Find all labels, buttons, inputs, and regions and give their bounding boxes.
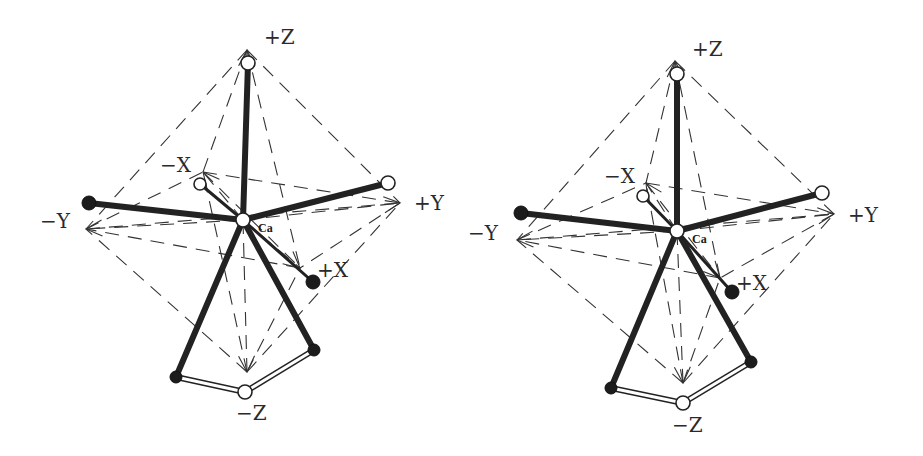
atom-lower-right bbox=[745, 356, 757, 368]
octahedron-edge bbox=[203, 172, 247, 372]
bond-ca-lower-left bbox=[611, 231, 677, 388]
atom-minus-y bbox=[82, 196, 96, 210]
axis-label-mx: −X bbox=[604, 164, 636, 188]
bond-ca-plus-y bbox=[677, 193, 822, 231]
atom-plus-y bbox=[381, 176, 395, 190]
axis-line-my bbox=[86, 220, 243, 229]
octahedron-edge bbox=[203, 50, 247, 172]
axis-label-mx: −X bbox=[160, 153, 192, 177]
atom-minus-y bbox=[514, 206, 528, 220]
atom-bottom bbox=[676, 396, 690, 410]
atom-lower-right bbox=[308, 344, 320, 356]
atom-minus-x bbox=[194, 178, 206, 190]
octahedron-edge bbox=[720, 214, 834, 278]
bond-ca-lower-right bbox=[243, 220, 314, 350]
ca-label: Ca bbox=[258, 221, 273, 235]
axis-label-my: −Y bbox=[40, 209, 71, 233]
bond-ca-top bbox=[243, 63, 248, 220]
axis-line-mx bbox=[646, 183, 677, 231]
atom-top bbox=[670, 67, 684, 81]
bond-ca-minus-y bbox=[89, 203, 243, 220]
double-bond-inner bbox=[176, 377, 245, 392]
left-stereo-panel: Ca+Z−Z+Y−Y+X−X bbox=[40, 25, 445, 425]
octahedron-edge bbox=[646, 61, 675, 183]
octahedron-edge bbox=[517, 240, 683, 383]
ca-atom bbox=[670, 224, 684, 238]
double-bond-inner bbox=[683, 362, 751, 403]
octahedron-edge bbox=[247, 50, 300, 268]
double-bond-inner bbox=[245, 350, 314, 392]
atom-lower-left bbox=[605, 382, 617, 394]
octahedron-edge bbox=[675, 61, 834, 214]
atom-plus-y bbox=[815, 186, 829, 200]
axis-line-mz bbox=[677, 231, 683, 383]
axis-line-mx bbox=[203, 172, 243, 220]
atom-bottom bbox=[238, 385, 252, 399]
octahedron-edge bbox=[247, 50, 400, 203]
axis-label-my: −Y bbox=[468, 221, 499, 245]
axis-label-pz: +Z bbox=[692, 37, 723, 61]
axis-label-px: +X bbox=[736, 271, 768, 295]
ca-atom bbox=[236, 213, 250, 227]
ca-label: Ca bbox=[692, 232, 707, 246]
octahedron-edge bbox=[517, 183, 646, 240]
axis-label-mz: −Z bbox=[672, 413, 703, 437]
octahedron-edge bbox=[247, 268, 300, 372]
right-stereo-panel: Ca+Z−Z+Y−Y+X−X bbox=[468, 37, 879, 437]
axis-label-py: +Y bbox=[848, 203, 879, 227]
stereo-diagram: Ca+Z−Z+Y−Y+X−X Ca+Z−Z+Y−Y+X−X bbox=[0, 0, 923, 456]
atom-lower-left bbox=[170, 371, 182, 383]
axis-label-py: +Y bbox=[414, 191, 445, 215]
axis-line-my bbox=[517, 231, 677, 240]
axis-label-px: +X bbox=[317, 258, 349, 282]
bond-ca-lower-left bbox=[176, 220, 243, 377]
octahedron-edge bbox=[86, 229, 247, 372]
atom-minus-x bbox=[637, 190, 649, 202]
bond-ca-plus-y bbox=[243, 183, 388, 220]
bond-ca-plus-x bbox=[243, 220, 313, 282]
axis-label-pz: +Z bbox=[264, 25, 295, 49]
double-bond-inner bbox=[611, 388, 683, 403]
axis-line-mz bbox=[243, 220, 247, 372]
atom-top bbox=[241, 56, 255, 70]
axis-label-mz: −Z bbox=[236, 401, 267, 425]
